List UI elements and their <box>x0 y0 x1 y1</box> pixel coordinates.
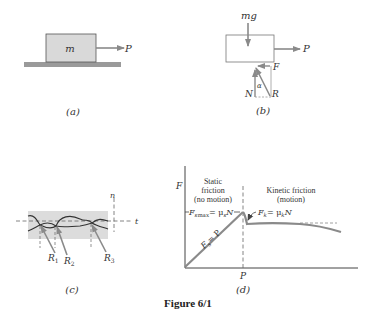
panel-d: F P (d) Static friction (no motion) Kine… <box>175 166 358 295</box>
panel-b: mg P F N R α (b) <box>226 10 310 116</box>
reaction-label-r3: R3 <box>103 253 115 264</box>
kinetic-equation: Fk= μkN <box>257 208 293 218</box>
x-axis-label: P <box>239 271 247 281</box>
kinetic-region-line2: (motion) <box>277 195 305 204</box>
static-region-line2: friction <box>201 186 225 195</box>
static-line-equation: Fs= P <box>198 228 223 252</box>
panel-b-label: (b) <box>256 105 270 116</box>
free-body-block <box>226 35 274 62</box>
panel-a-label: (a) <box>66 106 80 117</box>
y-axis-label: F <box>175 181 183 191</box>
resultant-label: R <box>271 89 279 99</box>
figure-canvas: m P (a) mg P F N R α (b) n t <box>0 0 376 318</box>
t-axis-label: t <box>135 217 139 226</box>
kinetic-leader-arrow <box>248 212 256 220</box>
friction-label: F <box>272 62 280 72</box>
static-region-line1: Static <box>204 177 223 186</box>
normal-label: N <box>244 89 254 99</box>
reaction-label-r2: R2 <box>63 256 75 267</box>
mass-label: m <box>65 43 74 54</box>
force-label: P <box>302 43 310 54</box>
figure-caption: Figure 6/1 <box>164 297 212 309</box>
force-label: P <box>124 43 132 54</box>
panel-a: m P (a) <box>24 34 132 117</box>
static-max-equation: Fsmax= μsN <box>188 208 234 218</box>
panel-c-label: (c) <box>65 284 79 295</box>
weight-label: mg <box>241 10 257 21</box>
reaction-label-r1: R1 <box>47 253 59 264</box>
angle-label: α <box>257 82 262 90</box>
kinetic-region-line1: Kinetic friction <box>266 186 315 195</box>
static-region-line3: (no motion) <box>194 195 232 204</box>
n-axis-label: n <box>110 191 115 200</box>
ground <box>24 62 121 67</box>
panel-d-label: (d) <box>236 284 250 295</box>
panel-c: n t R1 R2 R3 (c) <box>16 191 139 295</box>
